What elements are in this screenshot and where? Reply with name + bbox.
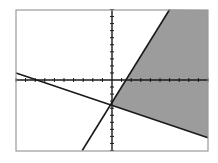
inequality-graph xyxy=(0,0,218,163)
